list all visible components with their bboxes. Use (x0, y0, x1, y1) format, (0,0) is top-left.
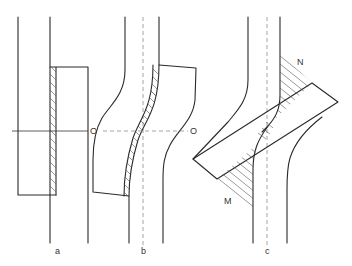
axis-label-right: O (190, 126, 197, 136)
panel-c-upper-outer (193, 17, 248, 159)
region-m-label: M (224, 196, 232, 206)
panel-c-lower-inner (253, 126, 268, 243)
panel-c-lower-outer (287, 117, 322, 243)
panel-c-upper-inner (262, 17, 280, 132)
panel-b-left-bar-outer (93, 17, 129, 196)
panel-a-label: a (55, 246, 60, 256)
panel-b-contact-right (129, 17, 159, 243)
panel-b-right-block (159, 65, 196, 243)
panel-b: O O b (90, 17, 197, 256)
panel-a-hatch (44, 60, 62, 206)
region-n-label: N (297, 57, 304, 67)
diagram-figure: a (0, 0, 352, 266)
axis-label-left: O (90, 126, 97, 136)
region-m-hatch (205, 112, 265, 232)
panel-c-label: c (265, 246, 270, 256)
panel-a-right-bar (50, 67, 88, 243)
panel-c-centre-hatch (258, 122, 273, 139)
panel-a: a (12, 17, 88, 256)
panel-c: N M c (193, 17, 338, 256)
panel-b-contact-left (124, 65, 153, 196)
panel-b-label: b (141, 246, 146, 256)
